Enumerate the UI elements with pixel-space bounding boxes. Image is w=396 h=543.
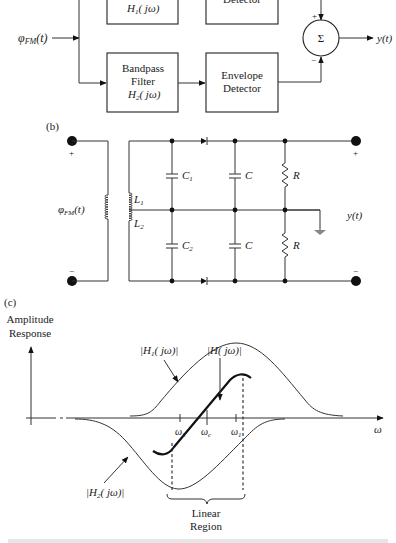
h-label: |H( jω)|	[207, 344, 242, 357]
output-terminal-plus	[351, 136, 361, 146]
bandpass-label-line1: Bandpass	[122, 62, 164, 74]
output-plus-sign: +	[353, 148, 358, 158]
C-upper-label: C	[245, 169, 253, 181]
h2-pointer-arrow	[104, 457, 128, 483]
sum-minus-sign: −	[311, 55, 316, 65]
junction-dots	[170, 139, 288, 284]
envelope-label-line1: Envelope	[221, 69, 263, 81]
part-c-label: (c)	[4, 296, 17, 309]
response-plot: (c) Amplitude Response ω ω2 ωc ω1	[4, 296, 383, 532]
circuit-input-label: φFM(t)	[58, 203, 85, 217]
c2-capacitor-icon	[166, 244, 178, 248]
R-upper-label: R	[292, 169, 300, 181]
part-b-label: (b)	[46, 120, 59, 133]
r-upper-resistor-icon	[282, 163, 288, 187]
R-lower-label: R	[292, 239, 300, 251]
bandpass-label-line2: Filter	[131, 75, 155, 87]
primary-bottom-wire	[72, 219, 108, 281]
L2-label: L2	[133, 217, 144, 231]
C-lower-label: C	[245, 239, 253, 251]
fm-discriminator-figure: φFM(t) H1( jω) Detector + Σ y(t) Bandpas…	[0, 0, 396, 543]
c1-capacitor-icon	[166, 174, 178, 178]
linear-region-brace	[167, 494, 245, 504]
linear-region-label-line2: Region	[190, 520, 222, 532]
output-label: y(t)	[376, 32, 393, 45]
bandpass-label-line3: H2( jω)	[127, 88, 161, 102]
y-axis-label-line2: Response	[9, 327, 51, 339]
circuit-output-label: y(t)	[346, 209, 363, 222]
x-axis-label: ω	[374, 423, 382, 435]
w2-label: ω2	[175, 426, 186, 439]
sum-plus-sign: +	[312, 11, 317, 21]
circuit-diagram: (b) + − φFM(t) L1 L2	[46, 120, 363, 286]
c-upper-capacitor-icon	[229, 174, 241, 178]
c-lower-capacitor-icon	[229, 244, 241, 248]
upper-detector-label: Detector	[223, 0, 261, 5]
wc-label: ωc	[201, 426, 212, 439]
L1-label: L1	[133, 193, 144, 207]
w1-label: ω1	[231, 426, 242, 439]
top-diode-icon	[201, 137, 207, 145]
upper-filter-label: H1( jω)	[126, 2, 160, 16]
ground-wire	[285, 210, 320, 230]
output-minus-sign: −	[353, 266, 358, 276]
input-minus-sign: −	[69, 266, 74, 276]
secondary-coil-icon	[129, 193, 132, 221]
block-diagram: φFM(t) H1( jω) Detector + Σ y(t) Bandpas…	[18, 0, 393, 112]
secondary-bottom-wire	[129, 221, 172, 281]
bottom-diode-icon	[201, 277, 207, 285]
ground-icon	[314, 230, 326, 235]
h1-label: |H1( jω)|	[140, 344, 178, 358]
h2-label: |H2( jω)|	[86, 486, 124, 500]
r-lower-resistor-icon	[282, 233, 288, 257]
linear-region-label-line1: Linear	[192, 507, 221, 519]
cropped-caption-strip	[8, 539, 388, 543]
C1-label: C1	[182, 169, 193, 183]
input-signal-label: φFM(t)	[18, 31, 48, 46]
y-axis-label-line1: Amplitude	[6, 313, 53, 325]
sigma-icon: Σ	[318, 32, 324, 44]
input-plus-sign: +	[69, 148, 74, 158]
secondary-top-wire	[129, 141, 172, 193]
h1-pointer-arrow	[164, 360, 178, 382]
primary-top-wire	[72, 141, 108, 195]
primary-coil-icon	[105, 195, 108, 219]
C2-label: C2	[182, 239, 193, 253]
output-terminal-minus	[351, 276, 361, 286]
envelope-label-line2: Detector	[223, 82, 261, 94]
